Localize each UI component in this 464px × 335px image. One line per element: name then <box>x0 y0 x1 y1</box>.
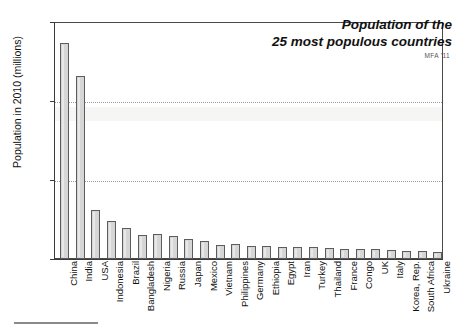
bar <box>278 247 287 259</box>
bar <box>231 244 240 259</box>
bar <box>91 210 100 259</box>
x-axis-tick-label: Vietnam <box>224 261 234 296</box>
bar <box>216 245 225 259</box>
x-axis-tick-label: France <box>349 261 359 291</box>
x-axis-tick-label: Italy <box>395 261 405 278</box>
x-axis-tick-label: UK <box>380 261 390 274</box>
x-axis-tick-label: Germany <box>255 261 265 300</box>
bar <box>418 251 427 259</box>
x-axis-tick-label: Iran <box>302 261 312 277</box>
bar <box>262 246 271 259</box>
bar <box>153 234 162 259</box>
x-axis-tick-label: Ethiopia <box>271 261 281 295</box>
bar-chart-figure: 1500 1000 500 0 Population in 2010 (mill… <box>0 0 464 335</box>
bar <box>60 43 69 259</box>
x-axis-tick-label: Bangladesh <box>146 261 156 311</box>
bar <box>138 235 147 259</box>
x-axis-tick-label: Egypt <box>286 261 296 285</box>
y-axis-title: Population in 2010 (millions) <box>11 2 23 202</box>
bar <box>402 251 411 259</box>
x-axis-tick-label: South Africa <box>426 261 436 312</box>
bar <box>387 250 396 259</box>
x-axis-line <box>54 259 443 260</box>
x-axis-tick-label: USA <box>100 261 110 281</box>
bar <box>200 241 209 259</box>
x-axis-tick-label: Indonesia <box>115 261 125 302</box>
bar <box>184 239 193 259</box>
x-axis-tick-label: Mexico <box>209 261 219 291</box>
bar <box>122 228 131 259</box>
chart-title-line-1: Population of the <box>202 16 452 33</box>
x-axis-tick-label: Russia <box>177 261 187 290</box>
bar <box>325 248 334 259</box>
x-axis-tick-label: Brazil <box>131 261 141 285</box>
footer-rule <box>14 322 98 324</box>
x-axis-tick-label: Japan <box>193 261 203 287</box>
x-axis-tick-label: Philippines <box>240 261 250 307</box>
x-axis-tick-label: India <box>84 261 94 282</box>
x-axis-tick-label: China <box>69 261 79 286</box>
chart-attribution: MFA '11 <box>202 52 450 59</box>
bar <box>356 249 365 259</box>
bar <box>309 247 318 259</box>
x-axis-tick-label: Thailand <box>333 261 343 297</box>
bar <box>169 236 178 259</box>
chart-title-line-2: 25 most populous countries <box>202 33 452 50</box>
x-axis-tick-label: Ukraine <box>442 261 452 294</box>
bar <box>371 249 380 259</box>
x-axis-tick-label: Nigeria <box>162 261 172 291</box>
x-axis-tick-label: Korea, Rep. <box>411 261 421 312</box>
bar <box>247 246 256 259</box>
x-axis-tick-label: Turkey <box>317 261 327 290</box>
bar <box>107 221 116 259</box>
chart-title-block: Population of the 25 most populous count… <box>202 16 452 59</box>
bar <box>433 252 442 259</box>
bar <box>76 76 85 259</box>
x-axis-tick-labels: ChinaIndiaUSAIndonesiaBrazilBangladeshNi… <box>54 261 443 335</box>
bar <box>293 247 302 259</box>
bar <box>340 249 349 259</box>
x-axis-tick-label: Congo <box>364 261 374 289</box>
